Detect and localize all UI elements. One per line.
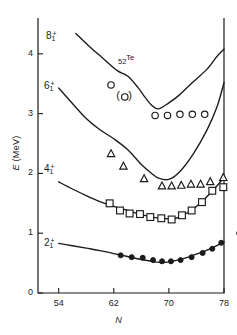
figure-te-level-systematics: E (MeV) N 52Te 0123454627078()81+61+41+2… — [0, 0, 237, 335]
series-markers-4-1-data-open-triangles--8 — [207, 178, 214, 185]
series-markers-4-1-data-open-squares--10 — [209, 187, 216, 194]
series-markers-4-1-data-open-squares--11 — [220, 184, 227, 191]
state-label-8-1-plus: 81+ — [46, 30, 57, 42]
series-markers-2-1-data-filled-circles--0 — [118, 253, 123, 258]
series-markers-4-1-data-open-squares--3 — [137, 211, 144, 218]
chart-canvas — [0, 0, 237, 335]
series-markers-2-1-data-filled-circles--6 — [178, 258, 183, 263]
state-label-4-1-plus: 41+ — [44, 163, 55, 175]
series-markers-4-1-data-open-squares--8 — [188, 207, 195, 214]
series-markers-6-1-data-open-circles--4 — [177, 111, 183, 117]
chart-title: 52Te — [118, 53, 134, 66]
series-markers-4-1-data-open-triangles--1 — [120, 162, 127, 169]
series-markers-4-1-data-open-squares--1 — [117, 207, 124, 214]
series-markers-2-1-data-filled-circles--1 — [129, 255, 134, 260]
series-markers-2-1-data-filled-circles--8 — [200, 250, 205, 255]
y-tick-label-4: 4 — [17, 48, 33, 58]
x-tick-label-78: 78 — [211, 298, 237, 308]
circle-paren-right: ) — [128, 89, 132, 101]
series-markers-4-1-data-open-triangles--0 — [107, 150, 114, 157]
series-markers-6-1-data-open-circles--3 — [164, 112, 170, 118]
y-tick-label-2: 2 — [17, 167, 33, 177]
title-element-symbol: Te — [126, 53, 134, 62]
series-markers-4-1-data-open-triangles--4 — [168, 182, 175, 189]
series-markers-4-1-data-open-triangles--7 — [197, 180, 204, 187]
state-label-2-1-plus: 21+ — [44, 237, 55, 249]
circle-paren-left: ( — [116, 89, 120, 101]
x-tick-label-62: 62 — [101, 298, 127, 308]
series-markers-2-1-data-filled-circles--10 — [219, 240, 224, 245]
x-tick-label-54: 54 — [46, 298, 72, 308]
series-markers-6-1-data-open-circles--1 — [122, 94, 128, 100]
series-markers-4-1-data-open-triangles--2 — [140, 175, 147, 182]
series-line-6-1-curve — [59, 83, 224, 180]
series-markers-4-1-data-open-squares--0 — [106, 200, 113, 207]
series-markers-2-1-data-filled-circles--3 — [151, 258, 156, 263]
series-markers-6-1-data-open-circles--5 — [189, 111, 195, 117]
series-markers-2-1-data-filled-circles--2 — [140, 255, 145, 260]
series-markers-4-1-data-open-squares--9 — [199, 199, 206, 206]
x-axis-label: N — [0, 315, 237, 325]
series-markers-4-1-data-open-squares--5 — [158, 215, 165, 222]
x-tick-label-70: 70 — [156, 298, 182, 308]
series-markers-6-1-data-open-circles--6 — [202, 111, 208, 117]
series-markers-2-1-data-filled-circles--9 — [210, 246, 215, 251]
series-markers-4-1-data-open-triangles--5 — [178, 181, 185, 188]
series-markers-4-1-data-open-triangles--9 — [220, 174, 227, 181]
y-axis-label-unit: (MeV) — [11, 135, 21, 161]
series-markers-6-1-data-open-circles--0 — [108, 82, 114, 88]
series-line-8-1-curve — [76, 34, 224, 109]
y-tick-label-1: 1 — [17, 227, 33, 237]
series-markers-4-1-data-open-triangles--3 — [158, 182, 165, 189]
series-markers-2-1-data-filled-circles--4 — [160, 259, 165, 264]
series-markers-4-1-data-open-squares--2 — [126, 210, 133, 217]
series-markers-4-1-data-open-triangles--6 — [187, 180, 194, 187]
series-markers-2-1-data-filled-circles--7 — [189, 255, 194, 260]
y-tick-label-3: 3 — [17, 108, 33, 118]
y-axis-label: E (MeV) — [11, 115, 21, 191]
series-markers-4-1-data-open-squares--4 — [147, 214, 154, 221]
state-label-sup-6-1-plus: + — [50, 80, 54, 87]
series-markers-4-1-data-open-squares--7 — [179, 212, 186, 219]
series-markers-2-1-data-filled-circles--5 — [168, 259, 173, 264]
series-markers-4-1-data-open-squares--6 — [168, 216, 175, 223]
state-label-sup-4-1-plus: + — [50, 163, 54, 170]
state-label-sup-8-1-plus: + — [52, 30, 56, 37]
y-tick-label-0: 0 — [17, 287, 33, 297]
series-markers-6-1-data-open-circles--2 — [152, 112, 158, 118]
state-label-sup-2-1-plus: + — [50, 237, 54, 244]
state-label-6-1-plus: 61+ — [44, 80, 55, 92]
